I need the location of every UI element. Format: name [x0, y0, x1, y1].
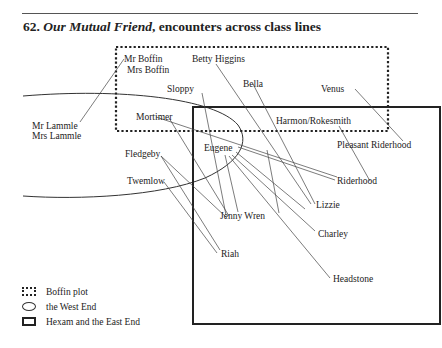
label-eugene: Eugene — [204, 143, 233, 153]
label-betty-higgins: Betty Higgins — [192, 54, 245, 64]
label-lizzie: Lizzie — [316, 200, 340, 210]
label-harmon-rokesmith: Harmon/Rokesmith — [276, 116, 351, 126]
label-mrs-lammle: Mrs Lammle — [32, 131, 81, 141]
solid-rectangle-icon — [22, 317, 36, 326]
label-headstone: Headstone — [333, 274, 373, 284]
encounter-lines — [80, 59, 403, 278]
label-mr-lammle: Mr Lammle — [32, 121, 78, 131]
label-pleasant-riderhood: Pleasant Riderhood — [337, 140, 411, 150]
legend-label: Hexam and the East End — [46, 317, 140, 327]
legend-item-west-end: the West End — [22, 299, 140, 314]
label-mortimer: Mortimer — [136, 112, 173, 122]
legend-label: the West End — [46, 302, 96, 312]
label-sloppy: Sloppy — [167, 84, 194, 94]
label-fledgeby: Fledgeby — [125, 149, 161, 159]
label-mr-boffin: Mr Boffin — [124, 54, 163, 64]
legend-label: Boffin plot — [46, 287, 88, 297]
label-jenny-wren: Jenny Wren — [220, 211, 265, 221]
label-charley: Charley — [318, 229, 348, 239]
label-venus: Venus — [321, 84, 345, 94]
legend-item-boffin-plot: Boffin plot — [22, 284, 140, 299]
label-riah: Riah — [221, 249, 239, 259]
label-riderhood: Riderhood — [337, 176, 377, 186]
label-bella: Bella — [243, 79, 264, 89]
label-mrs-boffin: Mrs Boffin — [127, 65, 170, 75]
ellipse-icon — [22, 302, 36, 311]
legend-item-east-end: Hexam and the East End — [22, 314, 140, 329]
legend: Boffin plot the West End Hexam and the E… — [22, 284, 140, 329]
label-twemlow: Twemlow — [127, 176, 165, 186]
dotted-rectangle-icon — [22, 287, 36, 296]
